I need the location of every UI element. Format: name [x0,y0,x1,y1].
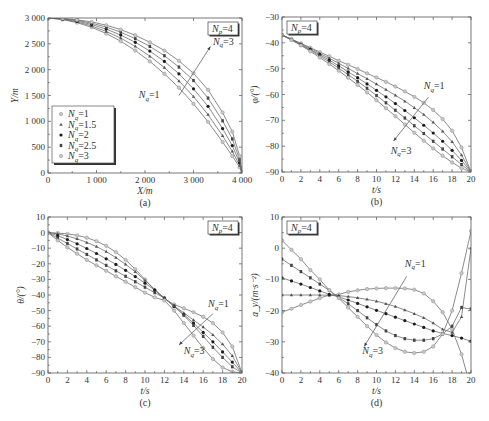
y-tick-label: −40 [265,368,280,378]
marker-4-hatched-circle-icon [356,83,359,86]
marker-4-hatched-circle-icon [114,275,117,278]
marker-2-filled-circle-icon [114,263,117,266]
x-tick-label: 12 [160,375,169,385]
marker-3-square-icon [385,101,388,104]
marker-2-filled-circle-icon [403,109,406,112]
panel-caption: (a) [139,197,150,209]
arrowhead-icon [207,46,210,50]
marker-3-square-icon [173,304,176,307]
marker-4-hatched-circle-icon [221,366,224,369]
y-tick-label: −70 [31,337,46,347]
marker-3-square-icon [460,163,463,166]
marker-2-filled-circle-icon [347,298,350,301]
marker-3-square-icon [375,94,378,97]
marker-3-square-icon [221,356,224,359]
y-axis-label: θ/(°) [16,286,27,303]
x-tick-label: 20 [467,375,477,385]
x-tick-label: 6 [336,174,341,184]
marker-2-filled-circle-icon [422,124,425,127]
y-axis-label: φ/(°) [250,85,261,103]
x-tick-label: 2 000 [135,175,156,185]
y-tick-label: 3 000 [25,13,46,23]
marker-4-hatched-circle-icon [105,24,108,27]
marker-0-hatched-circle-icon [114,250,117,253]
marker-2-filled-circle-icon [163,60,166,63]
marker-0-hatched-circle-icon [211,321,214,324]
y-tick-label: −40 [31,290,46,300]
marker-4-hatched-circle-icon [221,111,224,114]
marker-4-hatched-circle-icon [153,296,156,299]
marker-4-hatched-circle-icon [299,44,302,47]
y-tick-label: −10 [265,274,280,284]
figure: 01 0002 0003 0004 00005001 0001 5002 000… [0,0,489,421]
marker-0-hatched-circle-icon [124,258,127,261]
marker-2-filled-circle-icon [347,70,350,73]
x-axis-label: X/m [136,186,152,196]
marker-4-hatched-circle-icon [460,271,463,274]
y-tick-label: −90 [31,368,46,378]
marker-2-filled-circle-icon [231,360,234,363]
marker-4-hatched-circle-icon [450,161,453,164]
marker-4-hatched-circle-icon [318,56,321,59]
marker-3-square-icon [366,87,369,90]
marker-3-square-icon [76,247,79,250]
x-tick-label: 0 [280,174,285,184]
marker-1-triangle-icon [202,325,205,328]
y-tick-label: 1 500 [25,91,46,101]
marker-2-filled-circle-icon [441,140,444,143]
marker-0-hatched-circle-icon [318,296,321,299]
marker-4-hatched-circle-icon [422,350,425,353]
marker-0-hatched-circle-icon [309,300,312,303]
marker-0-hatched-circle-icon [134,49,137,52]
series-annotation: Nq=1 [404,258,426,272]
marker-0-hatched-circle-icon [375,287,378,290]
x-tick-label: 12 [391,174,400,184]
marker-2-filled-circle-icon [394,102,397,105]
y-tick-label: 10 [270,212,280,222]
marker-2-filled-circle-icon [124,269,127,272]
x-tick-label: 8 [123,375,128,385]
series-annotation: Nq=3 [212,36,234,50]
marker-0-hatched-circle-icon [460,146,463,149]
marker-4-hatched-circle-icon [290,38,293,41]
marker-2-filled-circle-icon [413,322,416,325]
marker-4-hatched-circle-icon [318,278,321,281]
marker-0-hatched-circle-icon [182,307,185,310]
y-tick-label: 2 500 [25,39,46,49]
x-tick-label: 2 [65,375,70,385]
x-tick-label: 4 [318,174,323,184]
marker-1-triangle-icon [148,54,151,57]
x-tick-label: 18 [218,375,228,385]
marker-2-filled-circle-icon [202,331,205,334]
panel-caption: (d) [371,397,383,409]
x-axis-label: t/s [141,386,150,396]
marker-4-hatched-circle-icon [61,17,64,20]
marker-4-hatched-circle-icon [172,309,175,312]
series-group [280,33,472,173]
x-tick-label: 20 [238,375,248,385]
marker-3-square-icon [134,37,137,40]
marker-2-filled-circle-icon [105,257,108,260]
marker-4-hatched-circle-icon [56,239,59,242]
marker-0-hatched-circle-icon [460,353,463,356]
marker-2-filled-circle-icon [192,87,195,90]
marker-2-filled-circle-icon [451,334,454,337]
marker-4-hatched-circle-icon [119,28,122,31]
marker-0-hatched-circle-icon [441,117,444,120]
marker-4-hatched-circle-icon [85,258,88,261]
x-tick-label: 0 [280,375,285,385]
marker-0-hatched-circle-icon [346,63,349,66]
marker-3-square-icon [66,242,69,245]
marker-3-square-icon [441,147,444,150]
marker-4-hatched-circle-icon [66,246,69,249]
marker-3-square-icon [356,80,359,83]
marker-4-hatched-circle-icon [432,147,435,150]
y-tick-label: −40 [265,38,280,48]
x-tick-label: 4 [318,375,323,385]
marker-2-filled-circle-icon [309,286,312,289]
marker-4-hatched-circle-icon [403,350,406,353]
x-tick-label: 8 [355,174,360,184]
marker-3-square-icon [422,132,425,135]
marker-3-square-icon [149,45,152,48]
series-line-n-q-1 [282,35,471,172]
